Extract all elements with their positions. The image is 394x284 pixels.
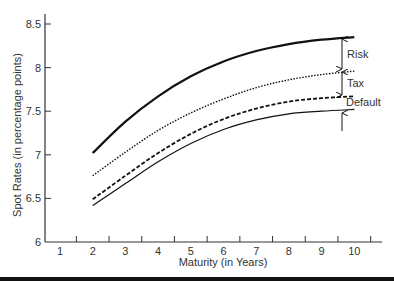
x-axis-ticks: 12345678910 — [57, 236, 371, 257]
series-lines — [93, 37, 355, 205]
x-tick-label: 1 — [57, 245, 63, 257]
y-tick-label: 6 — [35, 236, 41, 248]
y-tick-label: 8.5 — [26, 18, 41, 30]
y-axis-title: Spot Rates (in percentage points) — [11, 53, 23, 217]
series-line — [93, 37, 355, 153]
x-axis-title: Maturity (in Years) — [179, 256, 268, 268]
series-line — [93, 109, 355, 205]
x-tick-label: 8 — [286, 245, 292, 257]
axes — [45, 14, 382, 242]
y-tick-label: 7 — [35, 149, 41, 161]
annotation-label: Risk — [347, 48, 369, 60]
y-tick-label: 8 — [35, 62, 41, 74]
x-tick-label: 2 — [90, 245, 96, 257]
y-tick-label: 7.5 — [26, 105, 41, 117]
annotations: RiskTaxDefault — [342, 39, 381, 131]
x-tick-label: 9 — [319, 245, 325, 257]
x-tick-label: 4 — [155, 245, 161, 257]
x-tick-label: 3 — [122, 245, 128, 257]
y-tick-label: 6.5 — [26, 192, 41, 204]
bottom-rule — [0, 277, 394, 281]
spot-rate-chart: 66.577.588.5 12345678910 RiskTaxDefault … — [0, 0, 394, 284]
series-line — [93, 71, 355, 176]
y-axis-ticks: 66.577.588.5 — [26, 18, 51, 248]
x-tick-label: 10 — [348, 245, 360, 257]
annotation-label: Tax — [347, 77, 365, 89]
annotation-label: Default — [346, 96, 381, 108]
